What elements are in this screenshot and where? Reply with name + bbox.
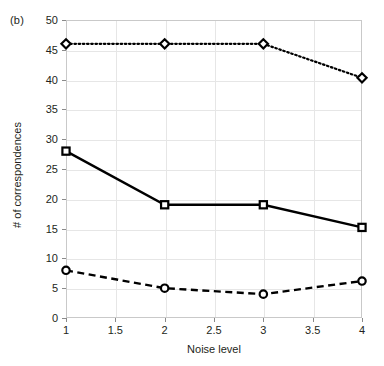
- panel-label: (b): [10, 14, 24, 26]
- series-marker-circle: [62, 267, 69, 274]
- series-line: [66, 151, 362, 227]
- y-tick-label: 45: [14, 44, 58, 56]
- x-tick-label: 2.5: [206, 324, 221, 336]
- x-tick-mark: [165, 318, 166, 322]
- series-marker-circle: [358, 277, 365, 284]
- series-dashed-circle: [62, 267, 365, 298]
- series-marker-diamond: [357, 73, 366, 82]
- x-tick-mark: [362, 318, 363, 322]
- plot-series-layer: [66, 20, 362, 318]
- series-marker-diamond: [259, 39, 268, 48]
- x-tick-label: 3: [260, 324, 266, 336]
- x-tick-mark: [66, 318, 67, 322]
- x-tick-mark: [313, 318, 314, 322]
- x-tick-label: 3.5: [305, 324, 320, 336]
- x-tick-label: 1: [63, 324, 69, 336]
- figure-panel-b: (b) 05101520253035404550 11.522.533.54 N…: [0, 0, 384, 366]
- x-tick-label: 1.5: [108, 324, 123, 336]
- series-line: [66, 44, 362, 78]
- series-marker-square: [62, 148, 69, 155]
- series-marker-circle: [260, 290, 267, 297]
- x-tick-mark: [214, 318, 215, 322]
- series-dotted-diamond: [61, 39, 366, 82]
- y-axis-label: # of correspondences: [11, 95, 23, 255]
- y-tick-label: 0: [14, 312, 58, 324]
- series-marker-diamond: [61, 39, 70, 48]
- series-marker-square: [260, 201, 267, 208]
- x-tick-mark: [263, 318, 264, 322]
- series-marker-circle: [161, 285, 168, 292]
- y-tick-mark: [62, 318, 66, 319]
- x-axis-label: Noise level: [66, 343, 362, 355]
- y-tick-label: 40: [14, 74, 58, 86]
- series-solid-square: [62, 148, 365, 231]
- x-tick-label: 2: [162, 324, 168, 336]
- y-tick-label: 5: [14, 282, 58, 294]
- series-marker-diamond: [160, 39, 169, 48]
- series-marker-square: [161, 201, 168, 208]
- x-tick-mark: [115, 318, 116, 322]
- series-line: [66, 270, 362, 294]
- series-marker-square: [358, 224, 365, 231]
- x-tick-label: 4: [359, 324, 365, 336]
